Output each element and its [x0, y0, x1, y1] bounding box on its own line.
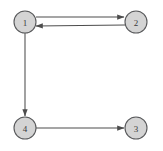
edge-line-2-to-1: [36, 25, 125, 26]
node-label-4: 4: [23, 124, 28, 134]
edge-2-to-1[interactable]: [36, 25, 125, 26]
graph-canvas: 1 2 3 4: [0, 0, 163, 151]
graph-node-4[interactable]: 4: [14, 117, 36, 139]
node-label-1: 1: [23, 18, 28, 28]
node-label-3: 3: [134, 124, 139, 134]
graph-node-1[interactable]: 1: [14, 11, 36, 33]
graph-node-2[interactable]: 2: [125, 11, 147, 33]
node-label-2: 2: [134, 18, 139, 28]
graph-node-3[interactable]: 3: [125, 117, 147, 139]
directed-graph-figure: 1 2 3 4: [0, 0, 163, 151]
